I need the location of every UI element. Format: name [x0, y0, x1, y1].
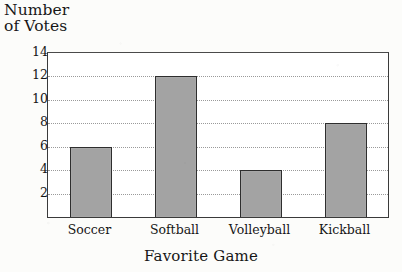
x-axis-title: Favorite Game	[0, 247, 402, 265]
bar-slot	[155, 53, 197, 217]
bar-kickball	[325, 123, 367, 217]
bar-slot	[240, 53, 282, 217]
y-axis-title: Number of Votes	[4, 2, 69, 34]
bar-chart-figure: Number of Votes 2468101214 SoccerSoftbal…	[0, 0, 402, 272]
bar-soccer	[70, 147, 112, 217]
bar-softball	[155, 76, 197, 217]
y-tick-label-14: 14	[16, 46, 48, 58]
y-tick-label-8: 8	[16, 116, 48, 128]
x-tick-label-soccer: Soccer	[47, 223, 132, 237]
y-tick-label-10: 10	[16, 93, 48, 105]
bar-slot	[70, 53, 112, 217]
y-tick-label-4: 4	[16, 163, 48, 175]
plot-area	[47, 52, 389, 218]
x-tick-label-kickball: Kickball	[302, 223, 387, 237]
y-tick-label-2: 2	[16, 187, 48, 199]
bar-volleyball	[240, 170, 282, 217]
x-tick-label-volleyball: Volleyball	[217, 223, 302, 237]
y-tick-label-12: 12	[16, 69, 48, 81]
bars-group	[48, 53, 388, 217]
x-tick-label-softball: Softball	[132, 223, 217, 237]
y-tick-label-6: 6	[16, 140, 48, 152]
bar-slot	[325, 53, 367, 217]
